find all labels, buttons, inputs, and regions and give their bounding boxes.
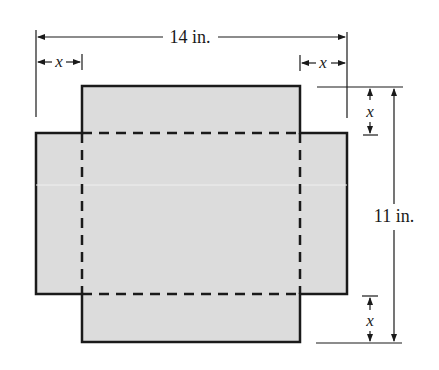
width-label: 14 in.: [169, 27, 210, 47]
sheet-shape: [36, 86, 347, 342]
cut-right-bottom-label: x: [365, 311, 374, 330]
height-label: 11 in.: [374, 206, 414, 226]
cut-right-top-label: x: [365, 102, 374, 121]
box-net-diagram: 14 in. x x 11 in. x x: [0, 0, 439, 370]
cut-top-right-label: x: [318, 53, 327, 72]
cut-top-left-label: x: [54, 52, 63, 71]
